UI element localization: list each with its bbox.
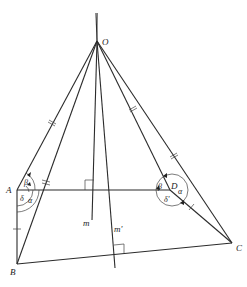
label-m: m — [83, 218, 90, 228]
angle-label-D-beta: β — [157, 182, 162, 191]
line-o-extension-2 — [97, 13, 98, 41]
segment-DC — [170, 190, 232, 243]
angle-label-D-delta-prime: δ' — [164, 195, 170, 204]
label-m-prime: m' — [114, 224, 123, 234]
line-m-prime — [97, 41, 115, 268]
angle-label-A-delta: δ — [20, 194, 24, 203]
angle-label-A-beta: β — [23, 178, 28, 187]
label-D: D — [170, 181, 178, 191]
label-A: A — [5, 185, 12, 195]
segment-OC — [97, 41, 232, 243]
tick-marks-OD — [129, 106, 137, 112]
label-C: C — [236, 243, 243, 253]
geometry-diagram: O A B C D m m' β δ α β α δ' — [0, 0, 247, 287]
right-angle-marker-m-prime — [114, 244, 124, 253]
segment-OB — [17, 41, 97, 264]
angle-label-D-alpha: α — [178, 187, 183, 196]
segment-BC — [17, 243, 232, 264]
segment-OA — [17, 41, 97, 190]
line-m — [92, 41, 97, 220]
label-O: O — [102, 37, 109, 47]
segment-OD — [97, 41, 170, 190]
angle-label-A-alpha: α — [28, 196, 33, 205]
label-B: B — [10, 267, 16, 277]
